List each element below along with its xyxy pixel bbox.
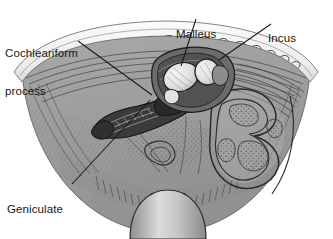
label-incus: Incus [268, 7, 296, 70]
label-malleus: Malleus [176, 3, 216, 66]
label-cochleariform-line2: process [5, 85, 78, 98]
label-incus-line1: Incus [268, 32, 296, 45]
label-cochleariform-process: Cochleariform process [5, 22, 78, 122]
label-geniculate-line1: Geniculate [7, 203, 63, 216]
label-geniculate-ganglion: Geniculate ganglion [7, 178, 63, 239]
label-cochleariform-line1: Cochleariform [5, 47, 78, 60]
label-malleus-line1: Malleus [176, 28, 216, 41]
anatomical-figure: Cochleariform process Malleus Incus Geni… [0, 0, 333, 239]
